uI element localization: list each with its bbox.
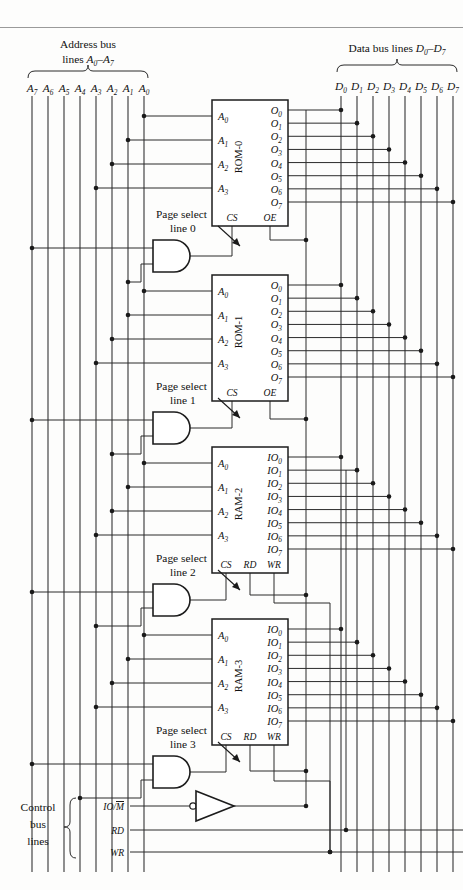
data-tap-rom1-d6: [435, 362, 440, 367]
inverter-output-dot: [304, 804, 309, 809]
data-tap-rom0-d2: [371, 134, 376, 139]
control-line-label-rd: RD: [110, 825, 124, 836]
addr-pin-ram3-0-sub: 0: [224, 635, 228, 644]
addr-tap-ram2-a0: [142, 461, 147, 466]
data-line-label-2-sub: 2: [375, 86, 379, 95]
data-tap-rom1-d5: [419, 348, 424, 353]
and-gate-ps3[interactable]: [153, 756, 190, 788]
and-gate-ps2[interactable]: [153, 584, 190, 616]
and-input-a-tap-ps1: [30, 418, 35, 423]
control-line-label-iom-overbar: M: [115, 801, 125, 812]
chip-ram3[interactable]: RAM-3A0A1A2A3IO0IO1IO2IO3IO4IO5IO6IO7CSR…: [212, 619, 288, 745]
data-pin-ram2-5-sub: 5: [278, 522, 282, 531]
data-pin-rom0-4-sub: 4: [278, 162, 282, 171]
chip-ram2[interactable]: RAM-2A0A1A2A3IO0IO1IO2IO3IO4IO5IO6IO7CSR…: [212, 447, 288, 573]
chip-rom0[interactable]: ROM-0A0A1A2A3O0O1O2O3O4O5O6O7CSOE: [212, 100, 288, 226]
data-tap-rom1-d4: [403, 335, 408, 340]
page-select-label-line2-ps3: line 3: [170, 738, 196, 750]
address-line-label-6-base: A: [42, 82, 50, 94]
data-line-label-3-sub: 3: [390, 86, 395, 95]
data-tap-ram3-d1: [355, 640, 360, 645]
data-tap-rom1-d7: [451, 375, 456, 380]
ctrl-pin-ram3-cs: CS: [220, 731, 231, 742]
memory-bus-diagram: Address buslines A0–A7 Data bus lines D0…: [0, 0, 463, 890]
addr-tap-rom0-a0: [142, 114, 147, 119]
data-pin-ram2-0-base: IO: [266, 452, 278, 463]
data-pin-rom1-7-sub: 7: [278, 377, 282, 386]
data-pin-rom1-4-sub: 4: [278, 337, 282, 346]
oe-rd-dot-ram2: [304, 593, 309, 598]
address-line-label-2-sub: 2: [114, 88, 118, 97]
addr-cap-a-hi: A: [102, 53, 110, 65]
ctrl-pin-rom1-oe: OE: [264, 387, 277, 398]
addr-pin-rom0-3-sub: 3: [223, 188, 228, 197]
and-gate-ps0[interactable]: [153, 240, 190, 272]
data-line-label-7-sub: 7: [455, 86, 459, 95]
addr-tap-ram2-a1: [126, 485, 131, 490]
data-pin-ram2-1-sub: 1: [278, 470, 282, 479]
page-select-label-line2-ps2: line 2: [170, 566, 196, 578]
chip-name-rom1: ROM-1: [233, 316, 244, 349]
address-line-label-5-base: A: [58, 82, 66, 94]
data-tap-ram2-d2: [371, 481, 376, 486]
addr-pin-rom1-0-sub: 0: [224, 291, 228, 300]
data-pin-rom1-6-sub: 6: [278, 363, 282, 372]
data-pin-ram3-7-base: IO: [266, 716, 278, 727]
data-pin-ram3-5-sub: 5: [278, 694, 282, 703]
data-tap-rom0-d0: [339, 108, 344, 113]
data-pin-ram3-0-sub: 0: [278, 629, 282, 638]
addr-tap-ram3-a2: [110, 681, 115, 686]
and-input-b-tap-ps3: [78, 796, 83, 801]
addr-pin-ram2-3-sub: 3: [223, 535, 228, 544]
data-pin-ram2-6-sub: 6: [278, 535, 282, 544]
data-tap-rom0-d6: [435, 187, 440, 192]
data-pin-ram3-5-base: IO: [266, 690, 278, 701]
data-pin-ram2-2-base: IO: [266, 478, 278, 489]
ctrl-pin-ram2-wr: WR: [267, 559, 281, 570]
and-gate-ps1[interactable]: [153, 412, 190, 444]
data-pin-rom1-0-sub: 0: [278, 285, 282, 294]
addr-pin-ram2-1-sub: 1: [224, 487, 228, 496]
chip-name-ram3: RAM-3: [233, 660, 244, 693]
data-pin-ram2-6-base: IO: [266, 531, 278, 542]
data-pin-ram3-2-base: IO: [266, 650, 278, 661]
data-line-label-1-sub: 1: [359, 86, 363, 95]
data-tap-ram2-d1: [355, 468, 360, 473]
ctrl-pin-ram3-rd: RD: [243, 731, 257, 742]
addr-pin-ram2-0-sub: 0: [224, 463, 228, 472]
data-pin-ram3-2-sub: 2: [278, 655, 282, 664]
ctrl-pin-rom0-oe: OE: [264, 212, 277, 223]
data-pin-ram2-4-base: IO: [266, 505, 278, 516]
data-pin-ram2-5-base: IO: [266, 518, 278, 529]
ctrl-pin-ram2-cs: CS: [220, 559, 231, 570]
oe-rd-dot-rom1: [304, 417, 309, 422]
chip-rom1[interactable]: ROM-1A0A1A2A3O0O1O2O3O4O5O6O7CSOE: [212, 275, 288, 401]
data-line-label-5-sub: 5: [423, 86, 427, 95]
data-tap-rom0-d5: [419, 173, 424, 178]
data-pin-rom0-2-sub: 2: [278, 136, 282, 145]
data-tap-ram2-d6: [435, 534, 440, 539]
addr-tap-ram3-a0: [142, 633, 147, 638]
addr-cap-a-lo: A: [86, 53, 94, 65]
and-gate-body-ps1: [153, 412, 190, 444]
oe-rd-dot-rom0: [304, 238, 309, 243]
data-tap-ram2-d7: [451, 547, 456, 552]
and-gate-body-ps2: [153, 584, 190, 616]
data-pin-rom0-1-sub: 1: [278, 123, 282, 132]
and-input-a-tap-ps0: [30, 246, 35, 251]
address-line-label-4-sub: 4: [82, 88, 86, 97]
data-tap-ram2-d4: [403, 507, 408, 512]
data-tap-ram3-d7: [451, 719, 456, 724]
ctrl-pin-rom1-cs: CS: [226, 387, 237, 398]
addr-tap-rom1-a1: [126, 313, 131, 318]
addr-tap-rom0-a3: [94, 186, 99, 191]
addr-pin-ram2-2-sub: 2: [224, 511, 228, 520]
data-tap-rom1-d1: [355, 296, 360, 301]
addr-tap-ram3-a3: [94, 705, 99, 710]
data-pin-rom0-6-sub: 6: [278, 188, 282, 197]
data-pin-rom0-7-sub: 7: [278, 202, 282, 211]
data-tap-rom0-d7: [451, 200, 456, 205]
addr-pin-rom0-2-sub: 2: [224, 164, 228, 173]
data-tap-ram3-d5: [419, 692, 424, 697]
data-pin-ram2-2-sub: 2: [278, 483, 282, 492]
